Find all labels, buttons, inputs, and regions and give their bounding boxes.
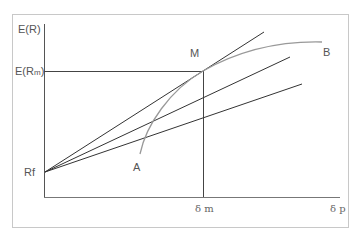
allocation-line-3 [45,84,302,172]
point-m-label: M [190,47,199,59]
outer-frame [13,15,349,228]
erm-close: ) [41,65,45,77]
point-b-label: B [323,46,330,58]
point-a-label: A [133,161,140,173]
capital-market-line [45,32,264,172]
erm-subscript: m [34,68,41,77]
efficient-frontier-curve [140,42,322,154]
y-axis-label: E(R) [18,23,41,35]
rf-label: Rf [24,166,35,178]
diagram-canvas [0,0,357,238]
sigma-m-label: δ m [195,203,214,214]
allocation-line-2 [45,57,290,172]
erm-label: E(Rm) [15,65,44,77]
erm-text: E(R [15,65,34,77]
sigma-p-label: δ p [330,203,346,214]
